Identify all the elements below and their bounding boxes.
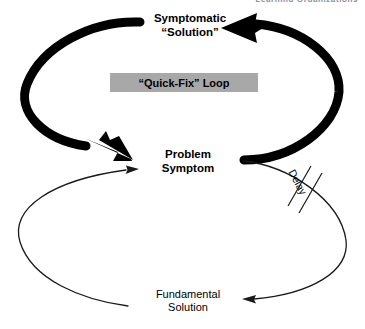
quick-fix-loop-label: “Quick-Fix” Loop bbox=[138, 77, 229, 89]
link-fundamental-to-problem bbox=[19, 166, 139, 307]
node-label-problem-symptom: Problem Symptom bbox=[133, 148, 243, 175]
node-label-symptomatic-solution: Symptomatic “Solution” bbox=[131, 12, 249, 39]
page-header-sliver: Learning Organizations bbox=[232, 0, 358, 2]
node-label-fundamental-solution: Fundamental Solution bbox=[133, 288, 243, 314]
quick-fix-loop-box: “Quick-Fix” Loop bbox=[110, 73, 258, 92]
arrowhead-thin-into-fundamental-solution bbox=[242, 295, 256, 304]
